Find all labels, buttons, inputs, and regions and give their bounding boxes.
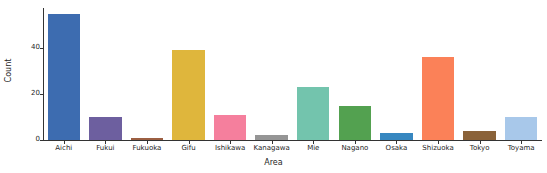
x-axis-tick-label-shizuoka: Shizuoka (422, 145, 453, 152)
y-axis-tick-labels: 02040 (8, 0, 40, 173)
x-axis-tick-label-fukuoka: Fukuoka (133, 145, 162, 152)
y-axis-tick-label: 20 (14, 90, 40, 97)
x-axis-tick-label-aichi: Aichi (55, 145, 72, 152)
y-axis-tick-mark (40, 48, 43, 49)
bar-fukui[interactable] (89, 117, 121, 140)
bar-fukuoka[interactable] (131, 138, 163, 140)
x-axis-tick-label-toyama: Toyama (508, 145, 535, 152)
y-axis-tick-label: 40 (14, 44, 40, 51)
bar-gifu[interactable] (172, 50, 204, 140)
y-axis-tick-mark (40, 94, 43, 95)
bar-chart-figure: 02040 Area Count AichiFukuiFukuokaGifuIs… (0, 0, 547, 173)
bar-nagano[interactable] (339, 106, 371, 140)
x-axis-tick-label-tokyo: Tokyo (470, 145, 490, 152)
x-axis-tick-label-osaka: Osaka (386, 145, 408, 152)
bar-shizuoka[interactable] (422, 57, 454, 140)
bar-osaka[interactable] (380, 133, 412, 140)
x-axis-title: Area (0, 158, 547, 167)
x-axis-tick-label-kanagawa: Kanagawa (254, 145, 290, 152)
bar-ishikawa[interactable] (214, 115, 246, 140)
bar-toyama[interactable] (505, 117, 537, 140)
x-axis-tick-label-gifu: Gifu (181, 145, 195, 152)
plot-area (43, 8, 542, 140)
bar-mie[interactable] (297, 87, 329, 140)
x-axis-spine (43, 140, 542, 141)
x-axis-tick-label-ishikawa: Ishikawa (215, 145, 245, 152)
y-axis-tick-mark (40, 140, 43, 141)
bar-aichi[interactable] (48, 14, 80, 140)
y-axis-tick-label: 0 (14, 136, 40, 143)
x-axis-tick-label-fukui: Fukui (96, 145, 114, 152)
x-axis-tick-label-nagano: Nagano (341, 145, 368, 152)
bar-kanagawa[interactable] (255, 135, 287, 140)
bar-tokyo[interactable] (463, 131, 495, 140)
x-axis-tick-label-mie: Mie (307, 145, 319, 152)
y-axis-title: Count (4, 41, 13, 101)
